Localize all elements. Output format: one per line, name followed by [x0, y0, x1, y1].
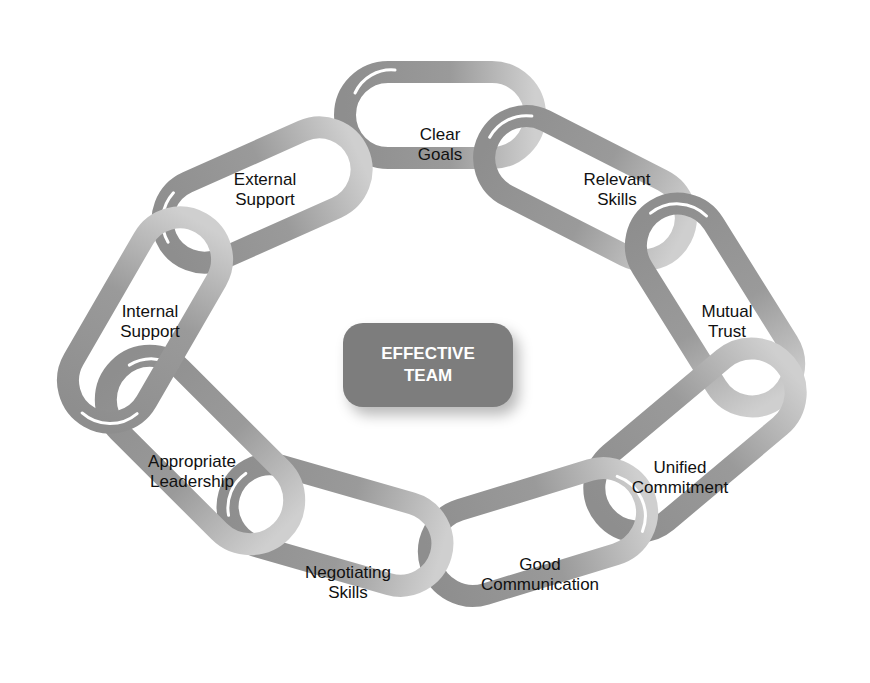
label-internal-support: Internal Support	[120, 302, 180, 342]
label-line: Unified	[632, 458, 728, 478]
center-line: TEAM	[404, 365, 452, 387]
label-line: Internal	[120, 302, 180, 322]
label-line: Support	[120, 322, 180, 342]
label-line: Trust	[701, 322, 752, 342]
center-box-effective-team: EFFECTIVE TEAM	[343, 323, 513, 407]
label-line: Negotiating	[305, 563, 391, 583]
label-negotiating-skills: Negotiating Skills	[305, 563, 391, 603]
label-line: Clear	[418, 125, 462, 145]
label-line: Goals	[418, 145, 462, 165]
chain-link-appropriate-leadership	[88, 338, 313, 563]
label-good-communication: Good Communication	[481, 555, 599, 595]
label-line: Support	[234, 190, 296, 210]
label-line: Leadership	[148, 472, 236, 492]
label-line: Skills	[583, 190, 650, 210]
label-line: Appropriate	[148, 452, 236, 472]
label-line: Commitment	[632, 478, 728, 498]
label-clear-goals: Clear Goals	[418, 125, 462, 165]
label-line: Good	[481, 555, 599, 575]
label-line: Skills	[305, 583, 391, 603]
label-line: Mutual	[701, 302, 752, 322]
label-line: Communication	[481, 575, 599, 595]
label-appropriate-leadership: Appropriate Leadership	[148, 452, 236, 492]
label-external-support: External Support	[234, 170, 296, 210]
label-relevant-skills: Relevant Skills	[583, 170, 650, 210]
label-line: Relevant	[583, 170, 650, 190]
label-unified-commitment: Unified Commitment	[632, 458, 728, 498]
label-line: External	[234, 170, 296, 190]
center-line: EFFECTIVE	[381, 343, 475, 365]
label-mutual-trust: Mutual Trust	[701, 302, 752, 342]
